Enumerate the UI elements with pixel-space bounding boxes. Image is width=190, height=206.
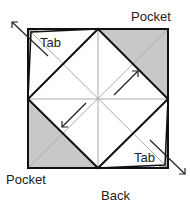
pocket-label-bottom: Pocket xyxy=(6,173,46,186)
caption-back: Back xyxy=(101,189,130,202)
tab-label-bottom: Tab xyxy=(134,151,155,164)
pocket-label-top: Pocket xyxy=(131,10,171,23)
arrow-inner-down-icon xyxy=(62,103,86,127)
arrow-inner-up-icon xyxy=(114,71,138,95)
tab-label-top: Tab xyxy=(40,36,61,49)
